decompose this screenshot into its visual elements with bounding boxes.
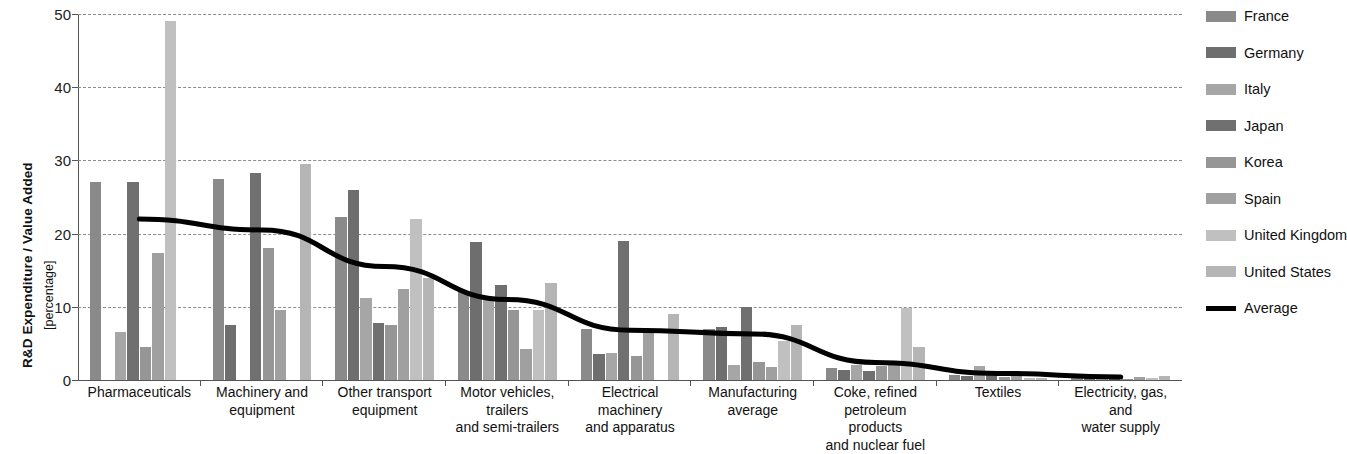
x-axis-label: Manufacturingaverage <box>691 384 814 438</box>
bar <box>766 367 777 380</box>
bar <box>533 310 544 380</box>
legend-label: France <box>1244 8 1289 24</box>
bar <box>1146 378 1157 380</box>
y-axis-tick-label: 50 <box>31 6 71 23</box>
bar <box>1096 378 1107 380</box>
bar <box>423 278 434 380</box>
bar <box>275 310 286 380</box>
bar <box>631 356 642 380</box>
plot-area: 01020304050 <box>78 14 1182 380</box>
y-axis-tick-label: 0 <box>31 372 71 389</box>
bar <box>703 329 714 380</box>
legend-label: Average <box>1244 300 1298 316</box>
bar <box>152 253 163 380</box>
bar <box>618 241 629 380</box>
bar <box>165 21 176 380</box>
bar-cluster <box>569 14 692 380</box>
bar-cluster <box>323 14 446 380</box>
bar <box>1159 376 1170 380</box>
legend-color-swatch <box>1206 230 1236 241</box>
bar <box>1036 378 1047 380</box>
bar <box>508 310 519 380</box>
x-axis-label: Coke, refinedpetroleum productsand nucle… <box>814 384 937 438</box>
bar <box>1109 378 1120 380</box>
bar <box>410 219 421 380</box>
bar <box>986 372 997 380</box>
legend-label: Italy <box>1244 81 1271 97</box>
legend-item[interactable]: Korea <box>1206 154 1283 170</box>
bar <box>1121 379 1132 380</box>
x-axis-label: Machinery andequipment <box>201 384 324 438</box>
bar <box>826 368 837 380</box>
x-axis-label: Motor vehicles,trailersand semi-trailers <box>446 384 569 438</box>
bar <box>888 363 899 380</box>
y-axis-title-group: R&D Expenditure / Value Added [percentag… <box>0 0 54 392</box>
legend-item[interactable]: Italy <box>1206 81 1271 97</box>
legend-item[interactable]: France <box>1206 8 1289 24</box>
bar <box>728 365 739 380</box>
y-axis-tick-mark <box>72 380 78 381</box>
bar <box>974 366 985 380</box>
bar <box>716 327 727 380</box>
bar-cluster <box>446 14 569 380</box>
bar <box>127 182 138 380</box>
y-axis-tick-label: 20 <box>31 225 71 242</box>
bar <box>140 347 151 380</box>
bar <box>876 366 887 380</box>
bar <box>483 297 494 380</box>
bar <box>999 377 1010 380</box>
x-axis-label: Pharmaceuticals <box>78 384 201 438</box>
legend-color-swatch <box>1206 84 1236 95</box>
bar <box>458 291 469 380</box>
x-axis-label: Textiles <box>937 384 1060 438</box>
bar <box>778 341 789 380</box>
bar <box>581 329 592 380</box>
legend-item[interactable]: United Kingdom <box>1206 227 1347 243</box>
x-axis-label: Other transportequipment <box>323 384 446 438</box>
bar <box>545 283 556 380</box>
bar <box>1134 377 1145 380</box>
bar <box>753 362 764 380</box>
legend-label: United Kingdom <box>1244 227 1347 243</box>
bar <box>115 332 126 380</box>
legend-color-swatch <box>1206 266 1236 277</box>
legend-item[interactable]: Germany <box>1206 45 1304 61</box>
x-axis-label: Electricity, gas, andwater supply <box>1059 384 1182 438</box>
bar <box>1024 378 1035 380</box>
bar-cluster <box>814 14 937 380</box>
bar <box>360 298 371 380</box>
legend-label: Spain <box>1244 191 1281 207</box>
x-axis-labels: PharmaceuticalsMachinery andequipmentOth… <box>78 384 1182 438</box>
bar <box>838 370 849 380</box>
y-axis-tick-label: 40 <box>31 79 71 96</box>
bar <box>373 323 384 380</box>
bar <box>643 330 654 380</box>
y-axis-tick-label: 10 <box>31 298 71 315</box>
bar <box>225 325 236 380</box>
legend-color-swatch <box>1206 193 1236 204</box>
bar <box>851 365 862 380</box>
bar <box>593 354 604 380</box>
y-axis-tick-label: 30 <box>31 152 71 169</box>
y-axis-unit: [percentage] <box>42 261 56 331</box>
bar <box>961 376 972 380</box>
bar <box>1071 376 1082 380</box>
legend-line-swatch <box>1206 306 1236 311</box>
bar <box>1011 374 1022 380</box>
y-axis-title: R&D Expenditure / Value Added <box>20 162 35 368</box>
bar <box>791 325 802 380</box>
legend-item[interactable]: Average <box>1206 300 1298 316</box>
bar <box>263 248 274 380</box>
legend-item[interactable]: United States <box>1206 264 1331 280</box>
legend-color-swatch <box>1206 47 1236 58</box>
bar <box>863 371 874 380</box>
bar-cluster <box>937 14 1060 380</box>
bar <box>1084 378 1095 380</box>
legend-label: United States <box>1244 264 1331 280</box>
legend-item[interactable]: Spain <box>1206 191 1281 207</box>
bar <box>470 242 481 380</box>
legend-item[interactable]: Japan <box>1206 118 1284 134</box>
bar <box>901 308 912 380</box>
legend-label: Germany <box>1244 45 1304 61</box>
